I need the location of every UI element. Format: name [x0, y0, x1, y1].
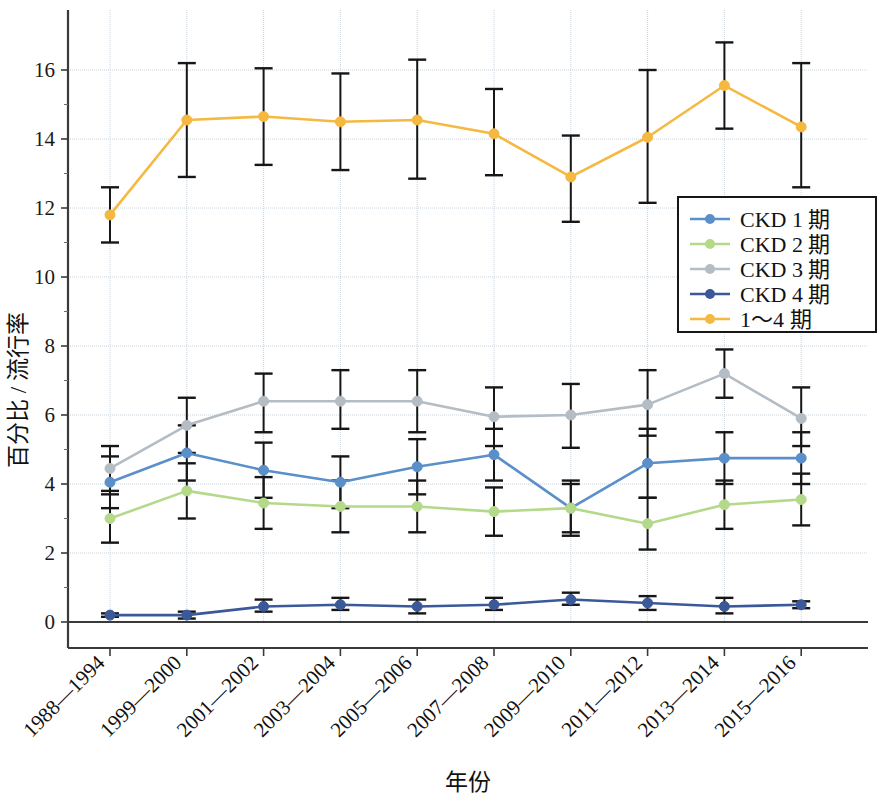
series-point	[105, 477, 115, 487]
y-tick-label: 10	[34, 265, 55, 289]
y-tick-label: 6	[45, 403, 56, 427]
series-point	[489, 450, 499, 460]
legend-marker	[705, 314, 715, 324]
series-point	[566, 172, 576, 182]
legend-item-label[interactable]: CKD 3 期	[740, 257, 830, 282]
series-point	[719, 601, 729, 611]
series-point	[489, 507, 499, 517]
series-point	[259, 601, 269, 611]
series-point	[182, 448, 192, 458]
legend-item-label[interactable]: CKD 1 期	[740, 207, 830, 232]
series-point	[259, 465, 269, 475]
series-point	[796, 495, 806, 505]
legend-item-label[interactable]: CKD 2 期	[740, 232, 830, 257]
y-axis-title: 百分比 / 流行率	[6, 312, 31, 468]
x-axis-title: 年份	[445, 770, 491, 795]
series-point	[796, 600, 806, 610]
series-point	[259, 112, 269, 122]
series-point	[566, 410, 576, 420]
x-tick-label: 1999—2000	[95, 651, 186, 742]
series-point	[489, 600, 499, 610]
series-point	[719, 369, 729, 379]
series-point	[182, 115, 192, 125]
series-point	[182, 610, 192, 620]
x-tick-label: 2003—2004	[249, 650, 341, 742]
legend-marker	[705, 239, 715, 249]
legend-marker	[705, 264, 715, 274]
series-point	[719, 500, 729, 510]
x-tick-label: 2001—2002	[172, 651, 263, 742]
series-point	[643, 519, 653, 529]
series-point	[335, 117, 345, 127]
series-point	[105, 463, 115, 473]
y-tick-label: 0	[45, 610, 56, 634]
series-point	[643, 400, 653, 410]
series-point	[412, 462, 422, 472]
chart-container: 0246810121416 1988—19941999—20002001—200…	[0, 0, 887, 805]
series-point	[796, 413, 806, 423]
series-point	[105, 610, 115, 620]
series-point	[259, 396, 269, 406]
series-point	[412, 501, 422, 511]
series-point	[796, 453, 806, 463]
x-tick-label: 2011—2012	[556, 651, 647, 742]
series-line	[110, 374, 801, 469]
series-point	[105, 514, 115, 524]
series-point	[643, 458, 653, 468]
legend-item-label[interactable]: CKD 4 期	[740, 282, 830, 307]
y-tick-label: 12	[34, 196, 55, 220]
series-point	[796, 122, 806, 132]
y-tick-label: 14	[34, 127, 56, 151]
series-point	[259, 498, 269, 508]
data-series	[105, 81, 806, 621]
legend-marker	[705, 289, 715, 299]
series-line	[110, 453, 801, 508]
series-point	[719, 453, 729, 463]
x-tick-label: 2007—2008	[402, 651, 493, 742]
series-point	[489, 129, 499, 139]
series-point	[182, 486, 192, 496]
series-point	[412, 601, 422, 611]
series-point	[335, 477, 345, 487]
chart-legend[interactable]: CKD 1 期CKD 2 期CKD 3 期CKD 4 期1～4 期	[678, 197, 876, 332]
series-point	[489, 412, 499, 422]
line-chart: 0246810121416 1988—19941999—20002001—200…	[0, 0, 887, 805]
x-tick-label: 2015—2016	[710, 651, 801, 742]
x-tick-label: 2013—2014	[633, 650, 725, 742]
x-tick-label: 1988—1994	[18, 650, 110, 742]
series-point	[566, 595, 576, 605]
series-line	[110, 86, 801, 215]
series-point	[182, 420, 192, 430]
y-axis-ticks: 0246810121416	[34, 58, 68, 634]
legend-item-label[interactable]: 1～4 期	[740, 307, 812, 332]
x-axis-ticks: 1988—19941999—20002001—20022003—20042005…	[18, 648, 801, 742]
series-point	[335, 600, 345, 610]
series-point	[566, 503, 576, 513]
y-tick-label: 2	[45, 541, 56, 565]
series-point	[643, 598, 653, 608]
y-tick-label: 4	[45, 472, 56, 496]
x-tick-label: 2005—2006	[326, 651, 417, 742]
x-tick-label: 2009—2010	[479, 651, 570, 742]
series-point	[335, 501, 345, 511]
series-point	[412, 396, 422, 406]
series-point	[412, 115, 422, 125]
legend-marker	[705, 214, 715, 224]
y-tick-label: 8	[45, 334, 56, 358]
series-line	[110, 491, 801, 524]
series-point	[719, 81, 729, 91]
series-point	[105, 210, 115, 220]
series-line	[110, 600, 801, 616]
series-point	[643, 132, 653, 142]
y-tick-label: 16	[34, 58, 55, 82]
series-point	[335, 396, 345, 406]
